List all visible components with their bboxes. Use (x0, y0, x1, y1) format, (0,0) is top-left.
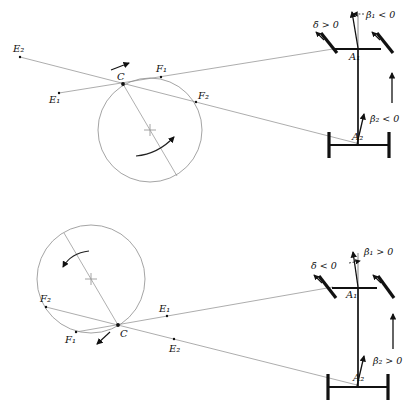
front-velocity-arrow (352, 12, 358, 48)
c-motion-arrow (97, 332, 110, 344)
point-C (116, 323, 120, 327)
label-A1: A₁ (348, 51, 360, 62)
label-E1: E₁ (48, 94, 60, 105)
front-left-wheel (321, 33, 337, 53)
label-F2: F₂ (197, 90, 209, 101)
label-A2: A₂ (351, 131, 363, 142)
label-F1: F₁ (155, 63, 167, 74)
point-C (121, 82, 125, 86)
label-F1: F₁ (64, 334, 76, 345)
label-E2: E₂ (168, 343, 180, 354)
label-C: C (120, 328, 128, 339)
front-velocity-arrow (353, 252, 358, 287)
rear-sight-line (46, 307, 357, 385)
label-delta: δ̇ > 0 (313, 19, 339, 30)
point-F1 (75, 331, 77, 333)
figure-bottom: F₂ F₁ C E₁ E₂ δ̇ < 0 β̇₁ > 0 A₁ β̇₂ > 0 … (37, 225, 402, 400)
label-beta2: β̇₂ > 0 (372, 355, 402, 366)
label-E1: E₁ (158, 303, 170, 314)
front-sight-line (76, 287, 333, 332)
front-right-wheel (378, 276, 394, 298)
point-E1 (166, 315, 168, 317)
label-A1: A₁ (345, 289, 357, 300)
point-F2 (195, 101, 197, 103)
diameter-line (64, 233, 118, 325)
label-A2: A₂ (352, 372, 364, 383)
vehicle-kinematics-diagram: E₂ E₁ C F₁ F₂ δ̇ > 0 β̇₁ < 0 A₁ β̇₂ < 0 … (0, 0, 412, 411)
diagram-canvas: E₂ E₁ C F₁ F₂ δ̇ > 0 β̇₁ < 0 A₁ β̇₂ < 0 … (0, 0, 412, 411)
point-E2 (173, 338, 175, 340)
front-sight-line (59, 49, 333, 93)
diameter-line (123, 84, 177, 176)
label-beta1: β̇₁ < 0 (365, 9, 395, 20)
c-motion-arrow (111, 63, 129, 70)
figure-top: E₂ E₁ C F₁ F₂ δ̇ > 0 β̇₁ < 0 A₁ β̇₂ < 0 … (12, 9, 399, 182)
rotation-arrow (136, 137, 174, 156)
label-beta1: β̇₁ > 0 (363, 246, 393, 257)
label-C: C (117, 71, 125, 82)
point-F1 (160, 76, 162, 78)
label-E2: E₂ (12, 43, 24, 54)
rear-sight-line (20, 57, 356, 143)
label-F2: F₂ (39, 293, 51, 304)
label-delta: δ̇ < 0 (311, 260, 337, 271)
point-F2 (45, 306, 47, 308)
label-beta2: β̇₂ < 0 (369, 113, 399, 124)
point-E2 (19, 56, 21, 58)
